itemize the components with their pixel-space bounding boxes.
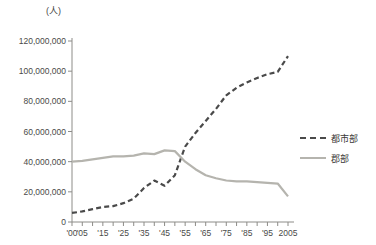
legend-dashed-line-icon xyxy=(300,137,326,139)
x-axis-ticks xyxy=(72,222,288,226)
data-series-layer xyxy=(72,56,288,213)
chart-legend: 都市部 郡部 xyxy=(300,130,376,170)
legend-solid-line-icon xyxy=(300,157,326,159)
legend-label-urban: 都市部 xyxy=(331,132,358,145)
series-line-urban xyxy=(72,56,288,213)
series-line-rural xyxy=(72,150,288,196)
legend-label-rural: 郡部 xyxy=(331,152,349,165)
axes xyxy=(68,38,294,226)
chart-plot-area xyxy=(0,0,376,245)
y-axis-ticks xyxy=(68,41,72,222)
population-line-chart: (人) 020,000,00040,000,00060,000,00080,00… xyxy=(0,0,376,245)
legend-item-rural: 郡部 xyxy=(300,150,376,166)
legend-item-urban: 都市部 xyxy=(300,130,376,146)
